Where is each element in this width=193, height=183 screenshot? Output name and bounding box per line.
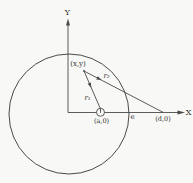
figure: Y X (x,y) r₂ r₁ e (a,0) (d,0)	[0, 0, 193, 183]
e-label: e	[131, 113, 135, 121]
point-xy-dot	[83, 70, 85, 72]
point-d-label: (d,0)	[155, 115, 171, 123]
y-axis-arrowhead	[66, 19, 70, 26]
r1-label: r₁	[85, 94, 91, 102]
x-axis-label: X	[186, 108, 192, 117]
r1-arrowhead	[88, 82, 92, 87]
r2-arrowhead	[96, 76, 101, 80]
r2-vector	[84, 71, 163, 112]
x-axis-arrowhead	[178, 110, 186, 114]
main-circle	[9, 54, 129, 174]
y-axis-label: Y	[64, 8, 71, 17]
r2-label: r₂	[104, 72, 110, 80]
diagram-canvas: Y X (x,y) r₂ r₁ e (a,0) (d,0)	[0, 0, 193, 183]
point-a-label: (a,0)	[94, 117, 110, 125]
point-xy-label: (x,y)	[70, 60, 86, 68]
